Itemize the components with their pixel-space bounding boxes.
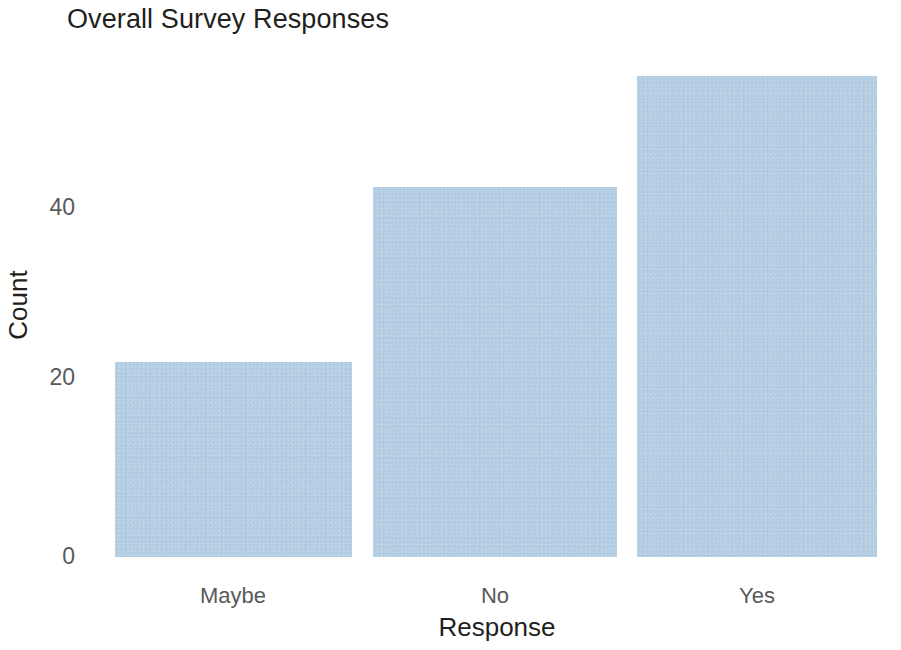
x-axis-title: Response	[438, 612, 555, 642]
bar-yes	[637, 76, 877, 557]
bar-chart-figure: Overall Survey Responses 0 20 40 Maybe N…	[0, 0, 901, 650]
y-axis-title: Count	[5, 270, 31, 339]
bar-texture	[637, 76, 877, 557]
bar-texture	[115, 362, 352, 557]
x-axis-tick-label-yes: Yes	[667, 585, 847, 607]
y-axis-tick-label-40: 40	[49, 196, 75, 219]
x-axis-tick-label-maybe: Maybe	[143, 585, 323, 607]
x-axis-tick-label-no: No	[405, 585, 585, 607]
y-axis-tick-label-20: 20	[49, 366, 75, 389]
y-axis-tick-label-0: 0	[62, 545, 75, 568]
plot-area: 0 20 40 Maybe No Yes	[0, 0, 901, 650]
bar-maybe	[115, 362, 352, 557]
bar-no	[373, 187, 617, 557]
bar-texture	[373, 187, 617, 557]
